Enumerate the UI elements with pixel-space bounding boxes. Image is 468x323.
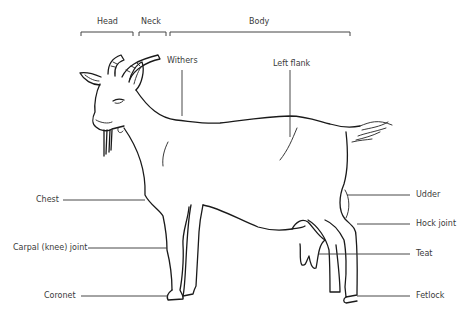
belly-line: [203, 205, 305, 230]
label-left-flank: Left flank: [273, 59, 310, 69]
goat-outline: [80, 55, 392, 303]
leader-lines: [63, 70, 410, 296]
neck-bracket: [139, 32, 166, 36]
label-withers: Withers: [167, 56, 198, 66]
flank-contour: [280, 128, 297, 160]
label-udder: Udder: [416, 190, 440, 200]
region-label-head: Head: [97, 17, 118, 27]
label-teat: Teat: [416, 249, 433, 259]
label-fetlock: Fetlock: [416, 291, 444, 301]
shoulder-contour: [163, 142, 168, 166]
label-coronet: Coronet: [44, 291, 76, 301]
udder-teats: [292, 220, 325, 268]
udder-outline: [345, 190, 349, 218]
goat-anatomy-diagram: Head Neck Body Withers Left flank Chest …: [0, 0, 468, 323]
region-label-neck: Neck: [141, 17, 161, 27]
head-face: [93, 84, 124, 131]
body-bracket: [170, 32, 350, 36]
head-bracket: [81, 32, 133, 36]
eye: [113, 99, 124, 101]
label-hock-joint: Hock joint: [416, 219, 456, 229]
chest-front-leg: [124, 128, 172, 290]
region-brackets: [81, 32, 350, 36]
beard: [104, 130, 112, 156]
label-carpal-joint: Carpal (knee) joint: [13, 243, 87, 253]
far-hind-leg: [308, 220, 340, 292]
label-chest: Chest: [36, 195, 59, 205]
back-line: [136, 90, 360, 127]
goat-illustration: [0, 0, 468, 323]
rear-horn: [108, 55, 124, 76]
region-label-body: Body: [249, 17, 269, 27]
far-front-leg: [183, 205, 203, 296]
